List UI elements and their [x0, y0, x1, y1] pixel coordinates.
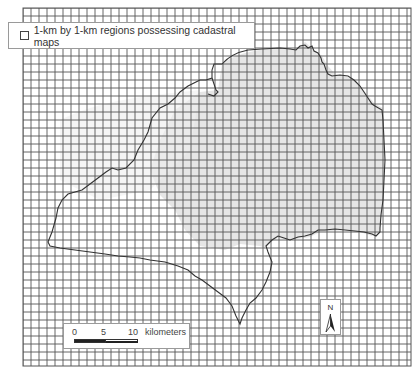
scale-tick-10: 10 [128, 327, 138, 337]
empty-square-icon [20, 31, 29, 40]
scale-segment-line [106, 341, 138, 343]
scale-unit: kilometers [145, 327, 186, 337]
north-arrow: N [320, 299, 341, 335]
north-label: N [321, 303, 340, 312]
scale-tick-0: 0 [72, 327, 77, 337]
scale-bar: 0 5 10 kilometers [63, 323, 190, 349]
scale-tick-5: 5 [101, 327, 106, 337]
map-canvas [0, 0, 419, 375]
legend-label: 1-km by 1-km regions possessing cadastra… [34, 24, 254, 48]
scale-segment-black [74, 339, 106, 343]
map-legend: 1-km by 1-km regions possessing cadastra… [8, 22, 255, 49]
north-arrow-icon [324, 313, 337, 333]
